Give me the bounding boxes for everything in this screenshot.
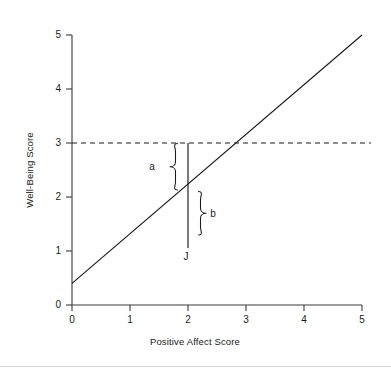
x-tick-label-5: 5 bbox=[359, 315, 365, 325]
y-tick-label-0: 0 bbox=[55, 300, 61, 310]
y-axis-title: Well-Being Score bbox=[24, 132, 35, 208]
x-tick-label-1: 1 bbox=[127, 315, 133, 325]
y-axis bbox=[66, 35, 72, 305]
plot-canvas bbox=[0, 0, 391, 375]
brace-b-label: b bbox=[210, 209, 216, 219]
brace-b-shape bbox=[199, 192, 207, 236]
regression-line bbox=[72, 35, 362, 283]
y-tick-label-4: 4 bbox=[55, 84, 61, 94]
x-axis bbox=[72, 305, 362, 311]
chart-figure: 0 1 2 3 4 5 0 1 2 3 4 5 Positive Affect … bbox=[0, 0, 391, 375]
y-tick-label-2: 2 bbox=[55, 192, 61, 202]
point-label-j: J bbox=[184, 252, 189, 262]
y-tick-label-1: 1 bbox=[55, 246, 61, 256]
x-tick-label-4: 4 bbox=[301, 315, 307, 325]
y-tick-label-3: 3 bbox=[55, 138, 61, 148]
x-axis-title: Positive Affect Score bbox=[150, 336, 240, 347]
brace-a-shape bbox=[170, 144, 178, 191]
y-tick-label-5: 5 bbox=[55, 30, 61, 40]
x-tick-label-3: 3 bbox=[243, 315, 249, 325]
x-tick-label-2: 2 bbox=[185, 315, 191, 325]
x-tick-label-0: 0 bbox=[69, 315, 75, 325]
brace-a-label: a bbox=[149, 162, 155, 172]
footer-divider bbox=[0, 366, 391, 367]
